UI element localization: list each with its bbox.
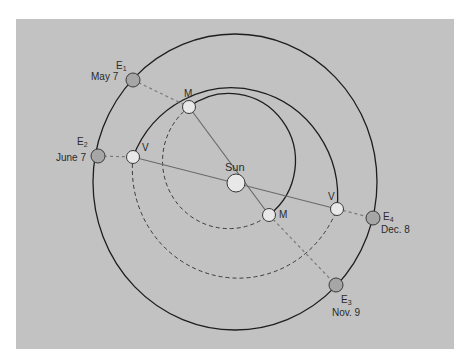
earth-label-e4: E4	[383, 211, 394, 225]
venus-label-2: V	[328, 191, 335, 202]
earth-date-e1: May 7	[91, 71, 118, 82]
sun	[227, 174, 245, 192]
earth-label-e2-letter: E	[77, 136, 84, 147]
venus-label-1: V	[142, 142, 149, 153]
earth-label-e1-letter: E	[116, 60, 123, 71]
mercury-position-1	[183, 101, 196, 114]
diagram-canvas	[0, 0, 464, 358]
orbit-diagram: Sun M M V V E1 May 7 E2 June 7 E3 Nov. 9…	[0, 0, 464, 358]
earth-date-e3: Nov. 9	[332, 307, 360, 318]
earth-label-e4-subscript: 4	[390, 216, 394, 223]
earth-label-e3: E3	[341, 294, 352, 308]
earth-label-e1-subscript: 1	[123, 65, 127, 72]
earth-position-e2	[91, 149, 105, 163]
mercury-label-1: M	[184, 88, 192, 99]
earth-date-e2: June 7	[56, 152, 86, 163]
mercury-position-2	[263, 209, 276, 222]
earth-label-e2: E2	[77, 136, 88, 150]
sun-label: Sun	[225, 162, 245, 173]
earth-position-e1	[126, 73, 140, 87]
earth-label-e4-letter: E	[383, 211, 390, 222]
earth-position-e4	[366, 211, 380, 225]
earth-label-e3-letter: E	[341, 294, 348, 305]
earth-label-e2-subscript: 2	[84, 141, 88, 148]
earth-position-e3	[329, 278, 343, 292]
venus-position-2	[331, 203, 344, 216]
earth-label-e3-subscript: 3	[348, 299, 352, 306]
earth-date-e4: Dec. 8	[381, 224, 410, 235]
venus-position-1	[127, 151, 140, 164]
mercury-label-2: M	[279, 209, 287, 220]
